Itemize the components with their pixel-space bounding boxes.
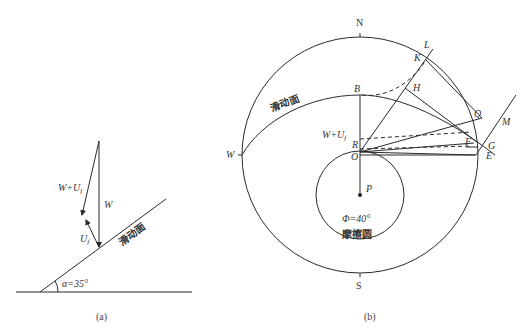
friction-angle-label: Φ=40° (342, 213, 370, 224)
point-O: O (351, 151, 358, 162)
compass-south: S (356, 280, 362, 291)
point-M: M (501, 116, 511, 127)
figure-a: α=35° W W+Uf Uf 滑动面 (a) (16, 141, 192, 323)
point-K: K (413, 52, 422, 63)
point-P: P (365, 183, 372, 194)
point-Q: Q (474, 108, 482, 119)
slip-plane-line (40, 199, 166, 292)
caption-b: (b) (364, 311, 376, 323)
point-E: E (485, 150, 492, 161)
label-W-plus-Uf: W+Uf (58, 182, 83, 195)
resultant-vector-W-plus-Uf (82, 141, 99, 215)
angle-label: α=35° (62, 278, 88, 289)
caption-a: (a) (96, 311, 107, 323)
angle-arc (55, 281, 58, 292)
slip-surface-label-b: 滑动面 (268, 91, 300, 113)
point-L: L (423, 39, 430, 50)
point-H: H (412, 82, 421, 93)
stereonet-figure: α=35° W W+Uf Uf 滑动面 (a) N S W 滑动面 Φ=40° … (0, 0, 528, 335)
figure-b: N S W 滑动面 Φ=40° 摩擦圆 B R O P L (226, 17, 516, 323)
compass-west: W (226, 149, 236, 160)
line-H-G (405, 88, 477, 142)
point-B: B (354, 83, 360, 94)
label-W: W (104, 199, 114, 210)
compass-north: N (356, 17, 363, 28)
point-F: F (464, 136, 472, 147)
label-Uf: Uf (80, 233, 90, 246)
dashed-WUf-level (360, 132, 472, 139)
point-R: R (351, 139, 358, 150)
point-P-dot (358, 193, 362, 197)
label-W-plus-Uf-b: W+Uf (322, 129, 347, 142)
friction-circle-label: 摩擦圆 (342, 228, 372, 240)
